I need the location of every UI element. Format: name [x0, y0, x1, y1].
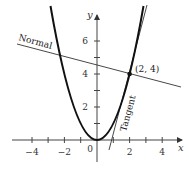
x-axis-label: x [178, 142, 184, 153]
y-tick-label-2: 2 [82, 102, 88, 112]
tangent-label: Tangent [118, 94, 137, 133]
point-label: (2, 4) [135, 64, 159, 74]
x-tick-label-0: 0 [87, 144, 93, 154]
y-axis-label: y [86, 9, 93, 20]
tangent-normal-chart: −4 −2 0 2 4 2 4 6 x y (2, 4) Normal Tang… [0, 0, 189, 173]
y-tick-label-6: 6 [82, 36, 88, 46]
x-tick-label-m2: −2 [58, 147, 71, 157]
normal-label: Normal [17, 32, 53, 51]
x-tick-label-p2: 2 [127, 147, 133, 157]
x-tick-label-p4: 4 [159, 147, 165, 157]
y-tick-label-4: 4 [82, 69, 88, 79]
tangent-point [127, 72, 132, 77]
x-tick-label-m4: −4 [25, 147, 39, 157]
